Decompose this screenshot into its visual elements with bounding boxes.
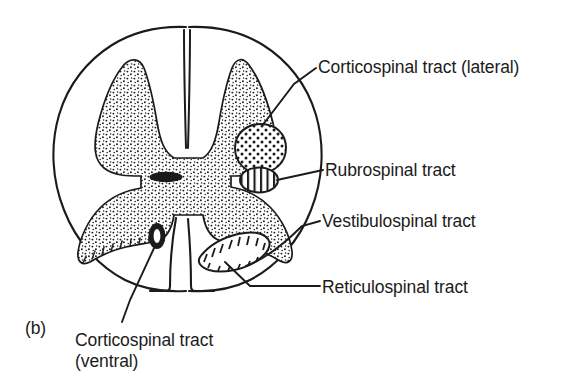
label-corticospinal-tract-lateral: Corticospinal tract (lateral) (318, 57, 519, 78)
vestibulospinal-tract-marker (199, 233, 270, 272)
label-corticospinal-ventral-line1: Corticospinal tract (75, 330, 213, 350)
label-corticospinal-ventral-line2: (ventral) (75, 351, 213, 372)
leader-corticospinal-ventral (122, 246, 155, 322)
label-vestibulospinal-tract: Vestibulospinal tract (322, 211, 476, 232)
figure-spinal-cord-descending-tracts: Corticospinal tract (lateral) Rubrospina… (0, 0, 587, 375)
label-rubrospinal-tract: Rubrospinal tract (325, 160, 456, 181)
dorsal-median-sulcus (184, 30, 190, 148)
corticospinal-lateral-tract-marker (235, 124, 286, 173)
corticospinal-ventral-tract-marker (150, 224, 165, 248)
central-canal (150, 172, 182, 181)
rubrospinal-tract-marker (240, 168, 278, 193)
panel-letter: (b) (25, 318, 46, 339)
label-corticospinal-tract-ventral: Corticospinal tract(ventral) (75, 330, 213, 372)
leader-rubrospinal (277, 170, 323, 180)
label-reticulospinal-tract: Reticulospinal tract (322, 277, 468, 298)
